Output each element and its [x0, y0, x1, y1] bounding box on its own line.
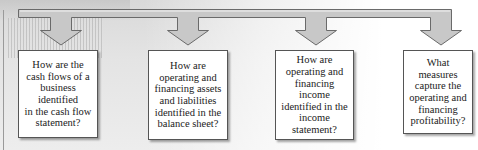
question-text: How are operating and financing assets a…	[155, 60, 222, 130]
connector-bar-with-arrows	[19, 10, 462, 46]
question-box-balance-sheet: How are operating and financing assets a…	[148, 50, 228, 140]
question-text: How are operating and financing income i…	[281, 54, 347, 135]
question-box-income-statement: How are operating and financing income i…	[275, 50, 354, 140]
question-text: What measures capture the operating and …	[409, 57, 466, 127]
question-box-profitability: What measures capture the operating and …	[403, 50, 473, 134]
question-text: How are the cash flows of a business ide…	[25, 59, 92, 129]
question-box-cash-flows: How are the cash flows of a business ide…	[18, 50, 98, 138]
